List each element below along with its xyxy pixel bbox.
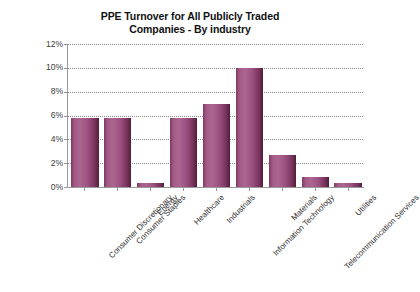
x-axis-category-label: Industrials (225, 193, 257, 225)
x-axis-category-label: Utilities (353, 193, 378, 218)
y-axis-tick-label: 10% (17, 63, 63, 72)
bar (203, 104, 230, 187)
bar-series (68, 44, 364, 187)
bar (71, 118, 98, 187)
y-axis-tick-mark (64, 116, 67, 117)
x-axis-tick-mark (249, 188, 250, 191)
x-axis-tick-mark (150, 188, 151, 191)
y-axis-tick-label: 12% (17, 40, 63, 49)
bar (170, 118, 197, 187)
bar (104, 118, 131, 187)
x-axis-category-label: Telecommunication Services (342, 193, 420, 271)
y-axis-tick-mark (64, 187, 67, 188)
y-axis-tick-mark (64, 139, 67, 140)
y-axis-tick-label: 2% (17, 159, 63, 168)
x-axis-tick-mark (282, 188, 283, 191)
x-axis-tick-mark (315, 188, 316, 191)
x-axis-tick-mark (117, 188, 118, 191)
x-axis-tick-mark (216, 188, 217, 191)
y-axis-tick-label: 4% (17, 135, 63, 144)
x-axis-category-label: Healthcare (192, 193, 226, 227)
y-axis-tick-labels: 12%10%8%6%4%2%0% (13, 44, 63, 188)
y-axis-tick-label: 8% (17, 87, 63, 96)
x-axis-category-labels: Consumer DiscretionaryConsumer StaplesEn… (0, 188, 380, 292)
y-axis-tick-mark (64, 92, 67, 93)
bar (137, 183, 164, 187)
bar (334, 183, 361, 187)
y-axis-tick-mark (64, 163, 67, 164)
x-axis-tick-mark (84, 188, 85, 191)
bar (236, 68, 263, 187)
y-axis-tick-label: 6% (17, 111, 63, 120)
x-axis-tick-mark (348, 188, 349, 191)
y-axis-tick-mark (64, 44, 67, 45)
bar (269, 155, 296, 187)
x-axis-tick-mark (183, 188, 184, 191)
bar (302, 177, 329, 187)
y-axis-tick-mark (64, 68, 67, 69)
chart-title: PPE Turnover for All Publicly Traded Com… (0, 10, 380, 35)
